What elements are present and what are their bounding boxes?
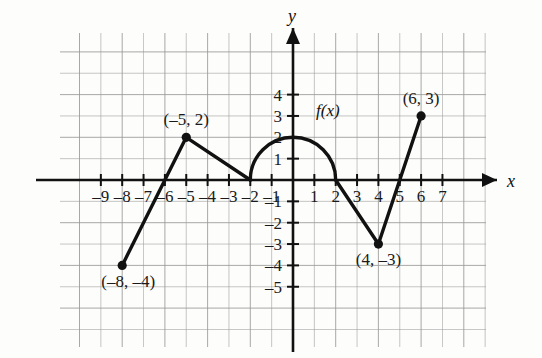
point-coordinate-label: (4, –3) bbox=[356, 250, 401, 269]
x-tick-label: –4 bbox=[198, 187, 217, 206]
y-tick-label: –3 bbox=[264, 235, 282, 254]
graph-figure: –9–8–7–6–5–4–3–2–11234567 4321–1–2–3–4–5… bbox=[0, 0, 542, 358]
y-tick-label: –4 bbox=[264, 256, 283, 275]
y-tick-label: –5 bbox=[264, 278, 282, 297]
x-tick-label: –7 bbox=[134, 187, 153, 206]
x-tick-label: –2 bbox=[241, 187, 259, 206]
point-coordinate-label: (–5, 2) bbox=[164, 110, 209, 129]
x-tick-label: –5 bbox=[177, 187, 195, 206]
x-tick-label: 3 bbox=[353, 187, 362, 206]
coordinate-plane-svg: –9–8–7–6–5–4–3–2–11234567 4321–1–2–3–4–5… bbox=[0, 0, 542, 358]
x-tick-label: 1 bbox=[310, 187, 319, 206]
y-axis-label: y bbox=[286, 6, 296, 26]
y-tick-label: –2 bbox=[264, 214, 282, 233]
x-tick-label: –9 bbox=[91, 187, 109, 206]
point-coordinate-label: (–8, –4) bbox=[101, 272, 155, 291]
y-tick-label: 1 bbox=[274, 150, 283, 169]
x-tick-label: 6 bbox=[417, 187, 426, 206]
data-point-marker bbox=[417, 111, 426, 120]
y-tick-label: –1 bbox=[264, 192, 282, 211]
data-point-marker bbox=[118, 261, 127, 270]
function-name-label: f(x) bbox=[316, 101, 340, 120]
point-coordinate-label: (6, 3) bbox=[403, 89, 440, 108]
x-tick-label: 7 bbox=[438, 187, 447, 206]
y-tick-label: 3 bbox=[274, 107, 283, 126]
x-tick-label: –3 bbox=[219, 187, 237, 206]
data-point-marker bbox=[374, 239, 383, 248]
x-tick-label: –8 bbox=[113, 187, 131, 206]
x-tick-label: 2 bbox=[331, 187, 340, 206]
x-tick-label: 4 bbox=[374, 187, 383, 206]
data-point-marker bbox=[182, 133, 191, 142]
x-axis-label: x bbox=[506, 171, 515, 191]
y-tick-label: 4 bbox=[274, 86, 283, 105]
